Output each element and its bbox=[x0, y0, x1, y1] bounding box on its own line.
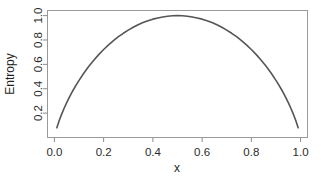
x-tick-label-5: 1.0 bbox=[293, 146, 309, 158]
plot-canvas: 0.00.20.40.60.81.0 0.20.40.60.81.0 x Ent… bbox=[0, 0, 321, 179]
x-tick-label-3: 0.6 bbox=[194, 146, 210, 158]
y-tick-label-4: 1.0 bbox=[32, 8, 44, 24]
x-tick-label-0: 0.0 bbox=[46, 146, 62, 158]
y-tick-label-2: 0.6 bbox=[32, 56, 44, 72]
x-tick-label-2: 0.4 bbox=[145, 146, 162, 158]
y-tick-label-1: 0.4 bbox=[32, 80, 44, 97]
x-tick-label-4: 0.8 bbox=[243, 146, 259, 158]
entropy-plot-figure: 0.00.20.40.60.81.0 0.20.40.60.81.0 x Ent… bbox=[0, 0, 321, 179]
y-tick-label-0: 0.2 bbox=[32, 105, 44, 121]
y-axis-title: Entropy bbox=[3, 53, 17, 94]
y-tick-label-3: 0.8 bbox=[32, 32, 44, 48]
x-axis-title: x bbox=[174, 161, 180, 175]
x-tick-label-1: 0.2 bbox=[96, 146, 112, 158]
